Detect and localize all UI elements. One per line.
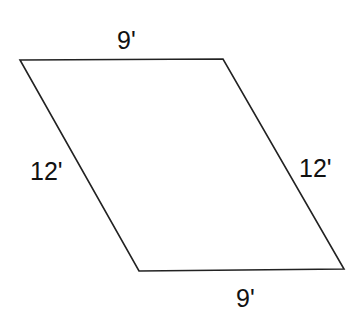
top-side-label: 9' [117, 26, 136, 54]
parallelogram-shape [20, 59, 344, 271]
left-side-label: 12' [30, 157, 63, 185]
right-side-label: 12' [299, 154, 332, 182]
parallelogram-diagram: 9' 12' 12' 9' [0, 0, 358, 323]
bottom-side-label: 9' [236, 284, 255, 312]
